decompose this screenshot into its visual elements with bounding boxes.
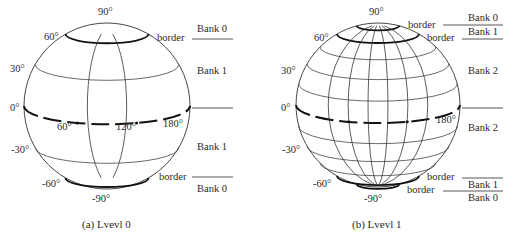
lat-label-0: 0° bbox=[10, 102, 19, 113]
figure-caption-b: (b) Lvevl 1 bbox=[352, 218, 401, 231]
lat-label-neg60: -60° bbox=[313, 178, 331, 189]
bank-label: Bank 2 bbox=[468, 122, 498, 133]
equator-marker bbox=[347, 120, 350, 123]
sphere-level-1 bbox=[296, 23, 460, 189]
lon-label-120: 120° bbox=[116, 121, 136, 132]
bank-label: Bank 1 bbox=[468, 179, 498, 190]
figure-caption-a: (a) Lvevl 0 bbox=[82, 218, 131, 231]
lon-label-180: 180° bbox=[436, 114, 456, 125]
lat-label-30: 30° bbox=[10, 63, 25, 74]
sphere-level-0 bbox=[24, 23, 190, 189]
border-label: border bbox=[407, 184, 435, 195]
bank-label: Bank 1 bbox=[197, 141, 227, 152]
bank-label: Bank 0 bbox=[468, 192, 498, 203]
meridian-line bbox=[87, 34, 101, 178]
bank-label: Bank 1 bbox=[197, 65, 227, 76]
parallel-line bbox=[307, 146, 449, 162]
bank-label: Bank 0 bbox=[197, 23, 227, 34]
border-parallel bbox=[66, 178, 149, 187]
lat-label-60: 60° bbox=[314, 32, 329, 43]
globe-outline bbox=[24, 23, 190, 189]
bank-label: Bank 0 bbox=[197, 183, 227, 194]
lat-label-60: 60° bbox=[44, 31, 59, 42]
lat-label-neg90: -90° bbox=[364, 193, 382, 204]
border-label: border bbox=[408, 19, 436, 30]
border-label-bottom: border bbox=[159, 171, 187, 182]
equator-marker bbox=[406, 120, 409, 123]
border-label: border bbox=[427, 32, 455, 43]
bank-label: Bank 0 bbox=[468, 12, 498, 23]
parallel-line bbox=[299, 84, 457, 101]
parallel-line bbox=[35, 148, 179, 164]
parallel-line bbox=[320, 47, 436, 60]
meridian-line bbox=[368, 26, 377, 184]
lat-label-90: 90° bbox=[369, 6, 384, 17]
lat-label-neg30: -30° bbox=[11, 144, 29, 155]
lat-label-30: 30° bbox=[281, 65, 296, 76]
border-label: border bbox=[427, 171, 455, 182]
equator-marker bbox=[76, 122, 79, 125]
border-parallel bbox=[66, 34, 149, 43]
parallel-line bbox=[299, 126, 457, 143]
diagram-canvas: 90° 60° 30° 0° -30° -60° -90° 60° 120° 1… bbox=[0, 0, 513, 238]
lat-label-neg60: -60° bbox=[42, 178, 60, 189]
parallel-line bbox=[320, 163, 436, 176]
bank-label: Bank 1 bbox=[468, 26, 498, 37]
lat-label-neg90: -90° bbox=[92, 193, 110, 204]
parallel-line bbox=[307, 64, 449, 80]
meridian-line bbox=[113, 34, 127, 178]
lat-label-90: 90° bbox=[98, 6, 113, 17]
lon-label-60: 60° bbox=[57, 121, 72, 132]
lat-label-0: 0° bbox=[281, 102, 290, 113]
bank-label: Bank 2 bbox=[468, 65, 498, 76]
parallel-line bbox=[35, 65, 179, 81]
globe-outline bbox=[296, 23, 460, 187]
lon-label-180: 180° bbox=[163, 118, 183, 129]
lat-label-neg30: -30° bbox=[282, 144, 300, 155]
meridian-line bbox=[379, 26, 388, 184]
border-label-top: border bbox=[157, 32, 185, 43]
